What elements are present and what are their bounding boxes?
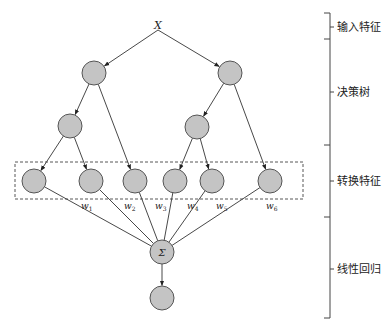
weight-labels: w1w2w3w4w5w6 bbox=[81, 201, 278, 212]
weight-label-5: w5 bbox=[216, 201, 228, 212]
leaf-5-node bbox=[200, 169, 224, 193]
tree1-root-node bbox=[82, 61, 106, 85]
tree2-root-node bbox=[218, 61, 242, 85]
edge-leaf-2-to-sum bbox=[99, 189, 153, 243]
edge-input-to-t1-root bbox=[104, 30, 158, 66]
edge-t1-root-to-t1-mid bbox=[75, 84, 89, 115]
edge-leaf-6-to-sum bbox=[172, 188, 260, 246]
edge-t2-mid-to-leaf-4 bbox=[180, 138, 193, 169]
input-x-label: X bbox=[153, 19, 163, 32]
layer-label-trees: 决策树 bbox=[337, 85, 370, 99]
layer-label-linear: 线性回归 bbox=[337, 262, 381, 276]
edge-t2-root-to-leaf-6 bbox=[234, 84, 265, 169]
sum-symbol: Σ bbox=[157, 247, 166, 258]
gbdt-lr-diagram: X Σ w1w2w3w4w5w6 输入特征 决策树 转换特征 线性回归 bbox=[0, 0, 391, 331]
layer-label-input: 输入特征 bbox=[337, 20, 381, 34]
tree2-internal-node bbox=[185, 115, 209, 139]
weight-label-3: w3 bbox=[155, 201, 167, 212]
edge-t1-mid-to-leaf-1 bbox=[41, 136, 64, 171]
edge-leaf-4-to-sum bbox=[164, 193, 173, 240]
edge-leaf-1-to-sum bbox=[44, 187, 151, 246]
edge-t1-mid-to-leaf-2 bbox=[74, 137, 86, 169]
leaf-2-node bbox=[79, 169, 103, 193]
weight-label-1: w1 bbox=[81, 201, 93, 212]
layer-label-transformed: 转换特征 bbox=[337, 174, 381, 188]
leaf-1-node bbox=[22, 169, 46, 193]
layer-brace bbox=[324, 13, 334, 318]
edge-t1-root-to-leaf-3 bbox=[98, 84, 130, 169]
brace-line bbox=[324, 13, 330, 318]
edge-t2-mid-to-leaf-5 bbox=[200, 139, 208, 169]
leaf-3-node bbox=[123, 169, 147, 193]
leaf-6-node bbox=[258, 169, 282, 193]
edge-leaf-3-to-sum bbox=[139, 192, 157, 241]
weight-label-6: w6 bbox=[266, 201, 278, 212]
edge-input-to-t2-root bbox=[158, 30, 219, 67]
nodes bbox=[22, 61, 282, 310]
edge-t2-root-to-t2-mid bbox=[204, 83, 224, 116]
output-node bbox=[150, 286, 174, 310]
edge-leaf-5-to-sum bbox=[169, 191, 205, 242]
weight-label-2: w2 bbox=[124, 201, 136, 212]
tree1-internal-node bbox=[58, 114, 82, 138]
leaf-4-node bbox=[163, 169, 187, 193]
